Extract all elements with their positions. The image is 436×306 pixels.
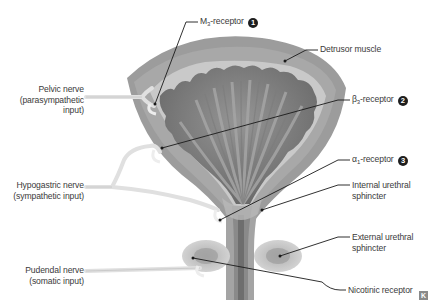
- label-text: M: [200, 16, 207, 26]
- label-external-sphincter: External urethral sphincter: [352, 232, 413, 253]
- label-text: -receptor: [360, 94, 394, 104]
- number-badge-2: 2: [398, 96, 408, 106]
- label-text: input): [20, 105, 84, 116]
- label-pelvic-nerve: Pelvic nerve (parasympathetic input): [20, 84, 84, 116]
- label-beta3-receptor: β3-receptor 2: [352, 94, 408, 108]
- number-badge-3: 3: [398, 156, 408, 166]
- label-pudendal-nerve: Pudendal nerve (somatic input): [25, 265, 84, 286]
- label-text: (sympathetic input): [13, 191, 84, 202]
- label-text: Internal urethral: [352, 180, 411, 191]
- number-badge-1: 1: [248, 18, 258, 28]
- label-text: Pelvic nerve: [20, 84, 84, 95]
- label-text: Nicotinic receptor: [348, 285, 413, 295]
- label-text: sphincter: [352, 191, 411, 202]
- label-text: (somatic input): [25, 276, 84, 287]
- label-text: Pudendal nerve: [25, 265, 84, 276]
- label-text: External urethral: [352, 232, 413, 243]
- label-alpha1-receptor: α1-receptor 3: [352, 154, 408, 168]
- label-nicotinic-receptor: Nicotinic receptor: [348, 285, 413, 296]
- label-text: sphincter: [352, 243, 413, 254]
- label-text: Detrusor muscle: [320, 44, 381, 54]
- label-text: -receptor: [360, 154, 394, 164]
- label-m3-receptor: M3-receptor 1: [200, 16, 258, 30]
- label-hypogastric-nerve: Hypogastric nerve (sympathetic input): [13, 180, 84, 201]
- label-text: -receptor: [210, 16, 244, 26]
- label-text: (parasympathetic: [20, 95, 84, 106]
- label-internal-sphincter: Internal urethral sphincter: [352, 180, 411, 201]
- publisher-logo-icon: K: [419, 291, 428, 300]
- label-detrusor-muscle: Detrusor muscle: [320, 44, 381, 55]
- label-text: Hypogastric nerve: [13, 180, 84, 191]
